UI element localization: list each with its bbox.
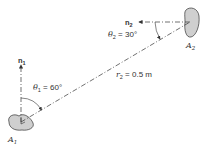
surface-a1-label: A1 (7, 135, 17, 145)
angle-theta1-label: θ1 = 60° (33, 83, 62, 93)
surface-a2-label: A2 (185, 41, 196, 51)
angle-theta2-arc (155, 22, 160, 39)
view-factor-diagram: n1 n2 A1 A2 θ1 = 60° θ2 = 30° r2 = 0.5 m (0, 0, 204, 151)
surface-a2-shape (185, 8, 199, 37)
angle-theta1-arc (21, 98, 42, 110)
normal-n1-label: n1 (18, 56, 26, 66)
distance-r2-label: r2 = 0.5 m (116, 70, 152, 80)
distance-r2-line (21, 22, 190, 122)
normal-n2-label: n2 (125, 18, 133, 28)
angle-theta2-label: θ2 = 30° (108, 30, 137, 40)
